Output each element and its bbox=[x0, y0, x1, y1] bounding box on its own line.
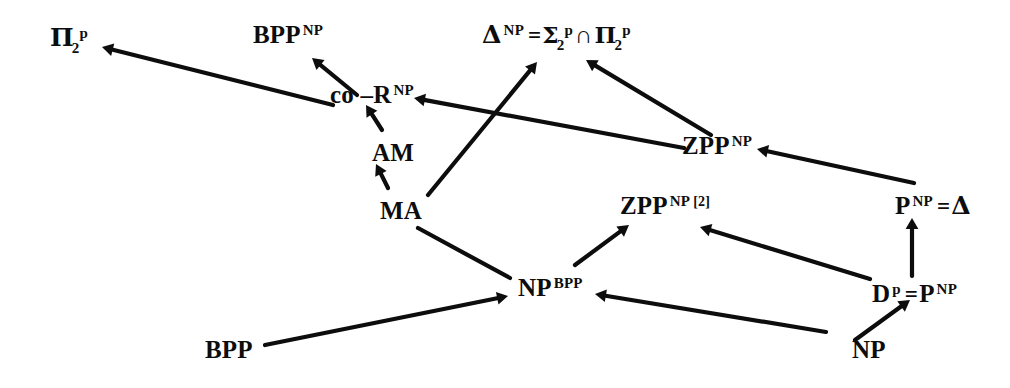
arrowhead bbox=[102, 43, 114, 55]
node-np-bpp[interactable]: NPBPP bbox=[518, 275, 583, 300]
arrowhead bbox=[414, 94, 426, 107]
node-delta-np-equals: = bbox=[528, 23, 541, 48]
node-pi2p-sup: p bbox=[80, 25, 89, 41]
node-co-r-np-base: co –R bbox=[330, 81, 391, 108]
edge-am-to-cor_np bbox=[366, 105, 384, 132]
edge-zpp_np-to-delta_np bbox=[586, 60, 713, 137]
edge-tail-dot bbox=[573, 263, 576, 266]
edge-line bbox=[420, 99, 684, 148]
node-bpp[interactable]: BPP bbox=[205, 337, 253, 362]
edge-ma-to-np_bpp bbox=[416, 226, 510, 278]
edge-tail-dot bbox=[426, 193, 429, 196]
node-d-p-base: D bbox=[872, 280, 890, 307]
edge-line bbox=[591, 63, 711, 135]
node-d-p-sup: p bbox=[892, 281, 901, 297]
node-pi2p-base: Π bbox=[50, 23, 74, 52]
node-d-p-equals: = bbox=[905, 282, 918, 307]
arrowhead bbox=[595, 289, 607, 302]
node-d-p-tail: P bbox=[919, 280, 934, 307]
node-d-p-tail-sup: NP bbox=[937, 281, 957, 297]
node-np-bpp-sup: BPP bbox=[554, 275, 583, 291]
edge-np-to-np_bpp bbox=[595, 289, 828, 333]
edge-ma-to-am bbox=[375, 164, 389, 190]
edge-layer bbox=[0, 0, 1010, 388]
edge-tail-dot bbox=[380, 128, 383, 131]
edge-tail-dot bbox=[912, 181, 915, 184]
edge-zpp_np-to-cor_np bbox=[414, 94, 686, 150]
edge-tail-dot bbox=[386, 186, 389, 189]
edge-line bbox=[575, 229, 624, 265]
node-p-np-delta-tail: Δ bbox=[951, 191, 971, 220]
node-bpp-np[interactable]: BPPNP bbox=[253, 22, 323, 47]
node-delta-np-sigma-sub: 2 bbox=[557, 37, 565, 53]
node-delta-np-base: Δ bbox=[482, 20, 502, 49]
arrowhead bbox=[757, 145, 769, 158]
node-np-base: NP bbox=[852, 336, 886, 363]
edge-line bbox=[706, 229, 870, 279]
node-bpp-np-base: BPP bbox=[253, 21, 301, 48]
edge-tail-dot bbox=[263, 343, 266, 346]
node-np-bpp-base: NP bbox=[518, 274, 552, 301]
node-co-r-np-sup: NP bbox=[393, 82, 413, 98]
edge-line bbox=[108, 48, 333, 105]
node-p-np-sup: NP bbox=[912, 193, 932, 209]
edge-tail-dot bbox=[910, 274, 913, 277]
node-bpp-base: BPP bbox=[205, 336, 253, 363]
node-d-p-p-np-identity[interactable]: Dp=PNP bbox=[872, 281, 957, 306]
node-p-np-delta-identity[interactable]: PNP=Δ bbox=[895, 193, 971, 218]
edge-ma-to-delta_np bbox=[426, 62, 537, 197]
edge-line bbox=[855, 304, 905, 340]
node-ma[interactable]: MA bbox=[380, 198, 422, 223]
node-p-np-equals: = bbox=[937, 194, 950, 219]
node-zpp-np-2-base: ZPP bbox=[620, 192, 668, 219]
node-am[interactable]: AM bbox=[372, 140, 414, 165]
edge-cor_np-to-pi2p bbox=[102, 43, 335, 106]
node-zpp-np-base: ZPP bbox=[682, 132, 730, 159]
node-delta-np-sigma-sup: p bbox=[565, 22, 574, 38]
edge-line bbox=[428, 67, 533, 195]
node-delta-np-identity[interactable]: ΔNP=Σ2p∩Π2p bbox=[482, 22, 631, 47]
node-delta-np-sup: NP bbox=[504, 22, 524, 38]
node-pi2p-sub: 2 bbox=[72, 40, 80, 56]
node-delta-np-pi-sup: p bbox=[622, 22, 631, 38]
node-ma-base: MA bbox=[380, 197, 422, 224]
edge-dp_pnp-to-p_np_delta bbox=[906, 218, 919, 278]
edge-bpp-to-np_bpp bbox=[263, 292, 508, 347]
edge-line bbox=[763, 150, 914, 183]
node-zpp-np-2-sup: NP bbox=[670, 193, 690, 209]
node-np[interactable]: NP bbox=[852, 337, 886, 362]
edge-dp_pnp-to-zpp_np2 bbox=[700, 224, 872, 281]
node-zpp-np-sup: NP bbox=[732, 133, 752, 149]
edge-line bbox=[265, 297, 502, 345]
intersection-operator: ∩ bbox=[575, 22, 592, 48]
node-zpp-np-2[interactable]: ZPPNP[2] bbox=[620, 193, 710, 218]
node-zpp-np[interactable]: ZPPNP bbox=[682, 133, 752, 158]
edge-line bbox=[418, 228, 510, 278]
edge-tail-dot bbox=[416, 226, 419, 229]
node-p-np-base: P bbox=[895, 192, 910, 219]
arrowhead bbox=[906, 218, 919, 229]
edge-line bbox=[601, 295, 826, 332]
node-co-r-np[interactable]: co –RNP bbox=[330, 82, 414, 107]
arrowhead bbox=[496, 292, 508, 305]
node-bpp-np-sup: NP bbox=[303, 22, 323, 38]
edge-tail-dot bbox=[824, 330, 827, 333]
node-am-base: AM bbox=[372, 139, 414, 166]
node-zpp-np-2-bracket: [2] bbox=[693, 194, 710, 209]
node-delta-np-pi-sub: 2 bbox=[614, 37, 622, 53]
edge-p_np_delta-to-zpp_np bbox=[757, 145, 916, 185]
edge-np_bpp-to-zpp_np2 bbox=[573, 225, 629, 267]
complexity-diagram: Π2p BPPNP ΔNP=Σ2p∩Π2p co –RNP AM MA ZPPN… bbox=[0, 0, 1010, 388]
node-pi2p[interactable]: Π2p bbox=[50, 25, 88, 50]
